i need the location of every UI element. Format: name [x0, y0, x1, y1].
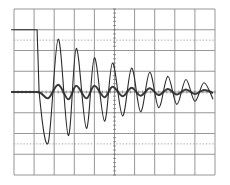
oscilloscope-display	[0, 0, 230, 185]
